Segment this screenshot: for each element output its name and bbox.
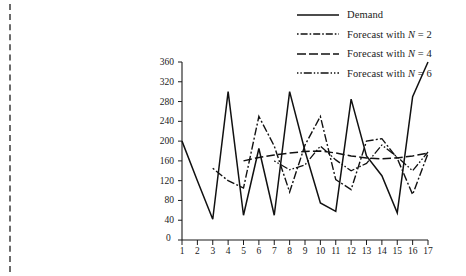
y-tick-label: 360 [148, 57, 174, 67]
legend-line-long-dash-icon [296, 49, 340, 59]
y-tick-label: 200 [148, 136, 174, 146]
y-tick-label: 240 [148, 116, 174, 126]
y-tick-label: 80 [148, 195, 174, 205]
x-tick-label: 3 [205, 246, 221, 256]
legend-item-forecast-n4: Forecast with N = 4 [296, 47, 432, 60]
x-tick-label: 5 [236, 246, 252, 256]
x-tick-label: 6 [251, 246, 267, 256]
x-tick-label: 13 [359, 246, 375, 256]
legend-item-demand: Demand [296, 8, 432, 21]
y-tick-label: 40 [148, 215, 174, 225]
x-tick-label: 9 [297, 246, 313, 256]
y-tick-label: 120 [148, 176, 174, 186]
page-trim-dashed-line [9, 4, 11, 272]
chart-canvas [182, 62, 428, 240]
x-tick-label: 8 [282, 246, 298, 256]
legend-item-forecast-n2: Forecast with N = 2 [296, 28, 432, 41]
x-tick-label: 15 [389, 246, 405, 256]
legend-line-solid-icon [296, 10, 340, 20]
x-tick-label: 16 [405, 246, 421, 256]
legend-label-forecast-n2: Forecast with N = 2 [347, 29, 432, 40]
legend-line-dash-dot-icon [296, 29, 340, 39]
x-tick-label: 12 [343, 246, 359, 256]
series-demand [182, 62, 428, 219]
y-axis-zero-label: 0 [166, 233, 171, 243]
legend-label-demand: Demand [347, 9, 383, 20]
y-tick-label: 280 [148, 97, 174, 107]
y-tick-label: 320 [148, 77, 174, 87]
figure-container: Demand Forecast with N = 2 Forecast with… [0, 0, 466, 276]
x-tick-label: 7 [266, 246, 282, 256]
x-tick-label: 17 [420, 246, 436, 256]
plot-area [182, 62, 428, 240]
x-tick-label: 10 [312, 246, 328, 256]
legend-label-forecast-n4: Forecast with N = 4 [347, 48, 432, 59]
x-tick-label: 4 [220, 246, 236, 256]
x-tick-label: 11 [328, 246, 344, 256]
y-tick-label: 160 [148, 156, 174, 166]
x-tick-label: 14 [374, 246, 390, 256]
x-tick-label: 1 [174, 246, 190, 256]
x-tick-label: 2 [189, 246, 205, 256]
